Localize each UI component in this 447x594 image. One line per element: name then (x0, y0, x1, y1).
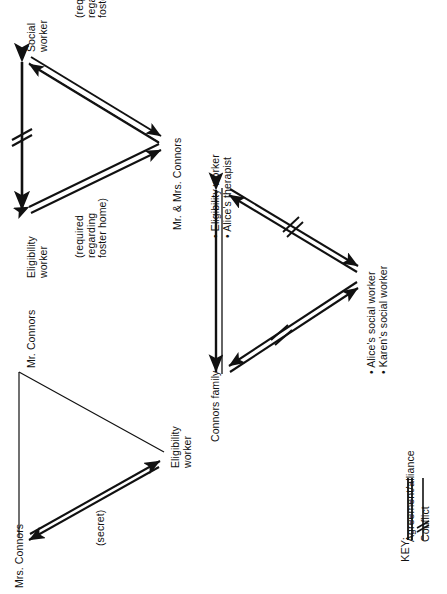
edge-socialworker-connors-agreement (29, 57, 163, 143)
node-label-connors-family: Connors family (210, 371, 222, 442)
node-label-mrs-connors: Mrs. Connors (14, 524, 26, 588)
node-label-social-worker: Social worker (26, 20, 49, 52)
annotation-required-foster-home-lower: (required regarding foster home) (74, 198, 109, 258)
edge-connorsfamily-socialworkers-conflict (229, 282, 358, 372)
annotation-secret: (secret) (95, 510, 107, 546)
middle-right-triangle (216, 188, 358, 374)
edge-eligibilityworker-socialworkers-conflict (229, 189, 358, 272)
annotation-required-foster-home-upper: (required regarding foster home) (74, 0, 109, 18)
node-label-alices-social-worker-bullet: • Alice's social worker (366, 271, 378, 374)
top-triangle (12, 57, 163, 213)
node-label-eligibility-worker-bullet: • Eligibility worker (210, 154, 222, 238)
diagram-page: Social worker Eligibility worker Mr. & M… (0, 0, 447, 594)
node-label-eligibility-worker-top: Eligibility worker (26, 236, 49, 278)
bottom-left-triangle (19, 372, 164, 540)
node-label-mr-connors: Mr. Connors (26, 310, 38, 368)
node-label-eligibility-worker-bottom: Eligibility worker (170, 426, 193, 468)
key-label-agreement: Agreement/alliance (405, 450, 417, 542)
key-label-conflict: Conflict (420, 506, 432, 542)
node-label-alices-therapist-bullet: • Alice's therapist (222, 157, 234, 238)
edge-mrconnors-eligibilityworker-plain (19, 372, 164, 452)
node-label-connors-couple: Mr. & Mrs. Connors (172, 138, 184, 230)
edge-socialworker-eligibilityworker-conflict (12, 62, 32, 210)
node-label-karens-social-worker-bullet: • Karen's social worker (378, 266, 390, 374)
